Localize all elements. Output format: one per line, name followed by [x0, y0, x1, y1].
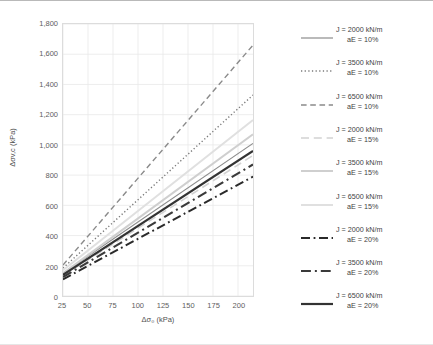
series-lines: [63, 24, 253, 296]
legend-line-swatch: [300, 295, 334, 305]
legend-line-swatch: [300, 29, 334, 39]
legend-label-line2: aE = 20%: [336, 301, 383, 311]
legend-label: J = 2000 kN/maE = 20%: [336, 225, 383, 245]
x-axis-tick-labels: 255075100125150175200: [62, 301, 254, 315]
x-tick-label: 200: [219, 301, 259, 310]
y-tick-label: 600: [2, 201, 58, 210]
legend-label-line1: J = 3500 kN/m: [336, 158, 383, 167]
legend-entry[interactable]: J = 6500 kN/maE = 10%: [300, 92, 428, 120]
legend-entry[interactable]: J = 3500 kN/maE = 10%: [300, 58, 428, 86]
legend-label: J = 3500 kN/maE = 20%: [336, 258, 383, 278]
y-axis-title: Δσv,c (kPa): [8, 108, 17, 188]
legend-line-swatch: [300, 62, 334, 72]
legend-label-line1: J = 3500 kN/m: [336, 58, 383, 67]
legend-label-line2: aE = 15%: [336, 202, 383, 212]
legend-label-line1: J = 6500 kN/m: [336, 192, 383, 201]
plot-area: [62, 23, 254, 297]
legend-label-line2: aE = 15%: [336, 135, 383, 145]
legend-line-swatch: [300, 96, 334, 106]
legend-label-line1: J = 6500 kN/m: [336, 291, 383, 300]
legend-line-swatch: [300, 162, 334, 172]
legend-label: J = 6500 kN/maE = 20%: [336, 291, 383, 311]
legend-line-swatch: [300, 229, 334, 239]
y-tick-label: 1,800: [2, 19, 58, 28]
legend-label-line2: aE = 10%: [336, 35, 383, 45]
legend-line-swatch: [300, 196, 334, 206]
legend-entry[interactable]: J = 2000 kN/maE = 20%: [300, 225, 428, 253]
legend-label-line1: J = 2000 kN/m: [336, 25, 383, 34]
legend-label-line1: J = 3500 kN/m: [336, 258, 383, 267]
legend-entry[interactable]: J = 6500 kN/maE = 15%: [300, 192, 428, 220]
legend-label: J = 3500 kN/maE = 15%: [336, 158, 383, 178]
legend-label-line1: J = 6500 kN/m: [336, 92, 383, 101]
legend-label-line1: J = 2000 kN/m: [336, 125, 383, 134]
legend-label: J = 6500 kN/maE = 10%: [336, 92, 383, 112]
y-tick-label: 400: [2, 232, 58, 241]
legend-entry[interactable]: J = 2000 kN/maE = 10%: [300, 25, 428, 53]
legend-label-line1: J = 2000 kN/m: [336, 225, 383, 234]
legend-label: J = 2000 kN/maE = 15%: [336, 125, 383, 145]
chart-figure: 02004006008001,0001,2001,4001,6001,800 Δ…: [0, 0, 433, 345]
legend-label-line2: aE = 15%: [336, 168, 383, 178]
legend-label-line2: aE = 20%: [336, 268, 383, 278]
legend-line-swatch: [300, 262, 334, 272]
legend-label-line2: aE = 10%: [336, 68, 383, 78]
legend-label: J = 3500 kN/maE = 10%: [336, 58, 383, 78]
legend-label-line2: aE = 20%: [336, 235, 383, 245]
legend-label: J = 2000 kN/maE = 10%: [336, 25, 383, 45]
chart-legend: J = 2000 kN/maE = 10%J = 3500 kN/maE = 1…: [300, 25, 428, 325]
x-axis-title: Δσ₀ (kPa): [62, 315, 254, 324]
legend-label: J = 6500 kN/maE = 15%: [336, 192, 383, 212]
legend-entry[interactable]: J = 3500 kN/maE = 15%: [300, 158, 428, 186]
legend-entry[interactable]: J = 3500 kN/maE = 20%: [300, 258, 428, 286]
legend-entry[interactable]: J = 6500 kN/maE = 20%: [300, 291, 428, 319]
legend-line-swatch: [300, 129, 334, 139]
y-tick-label: 1,600: [2, 49, 58, 58]
legend-entry[interactable]: J = 2000 kN/maE = 15%: [300, 125, 428, 153]
y-tick-label: 1,400: [2, 79, 58, 88]
legend-label-line2: aE = 10%: [336, 102, 383, 112]
y-tick-label: 200: [2, 262, 58, 271]
